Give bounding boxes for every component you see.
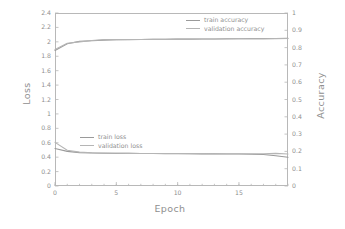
legend-accuracy: train accuracy validation accuracy (186, 16, 264, 33)
left-axis-title: Loss (21, 64, 32, 124)
y2-tick-label: 0.2 (292, 148, 322, 154)
left-axis-ticks (55, 13, 59, 186)
legend-label: train accuracy (204, 16, 248, 25)
y-tick-label: 0.6 (21, 140, 51, 146)
y-tick-label: 0 (21, 183, 51, 189)
y2-tick-label: 0.1 (292, 166, 322, 172)
y2-tick-label: 0 (292, 183, 322, 189)
x-axis-title: Epoch (115, 203, 225, 214)
legend-loss: train loss validation loss (80, 133, 142, 150)
series-line (55, 38, 288, 50)
legend-item: train accuracy (186, 16, 264, 25)
bottom-axis-ticks (55, 182, 288, 186)
legend-item: validation accuracy (186, 25, 264, 34)
legend-item: train loss (80, 133, 142, 142)
y2-tick-label: 0.3 (292, 131, 322, 137)
y-tick-label: 2.4 (21, 10, 51, 16)
y-tick-label: 0.4 (21, 154, 51, 160)
legend-line-icon (80, 137, 94, 138)
y2-tick-label: 0.8 (292, 45, 322, 51)
x-tick-label: 10 (166, 190, 190, 196)
y-tick-label: 0.2 (21, 169, 51, 175)
y-tick-label: 0.8 (21, 125, 51, 131)
y-tick-label: 2 (21, 39, 51, 45)
legend-label: validation loss (98, 142, 142, 151)
legend-item: validation loss (80, 142, 142, 151)
right-axis-title: Accuracy (315, 66, 326, 126)
series-line (55, 38, 288, 49)
legend-line-icon (186, 28, 200, 29)
legend-line-icon (186, 20, 200, 21)
legend-label: train loss (98, 133, 126, 142)
training-history-chart: 00.20.40.60.811.21.41.61.822.22.4 00.10.… (0, 0, 345, 229)
y2-tick-label: 1 (292, 10, 322, 16)
y-tick-label: 1.8 (21, 53, 51, 59)
y-tick-label: 2.2 (21, 24, 51, 30)
x-tick-label: 15 (227, 190, 251, 196)
x-tick-label: 5 (104, 190, 128, 196)
legend-label: validation accuracy (204, 25, 264, 34)
y2-tick-label: 0.9 (292, 27, 322, 33)
x-tick-label: 0 (43, 190, 67, 196)
legend-line-icon (80, 145, 94, 146)
